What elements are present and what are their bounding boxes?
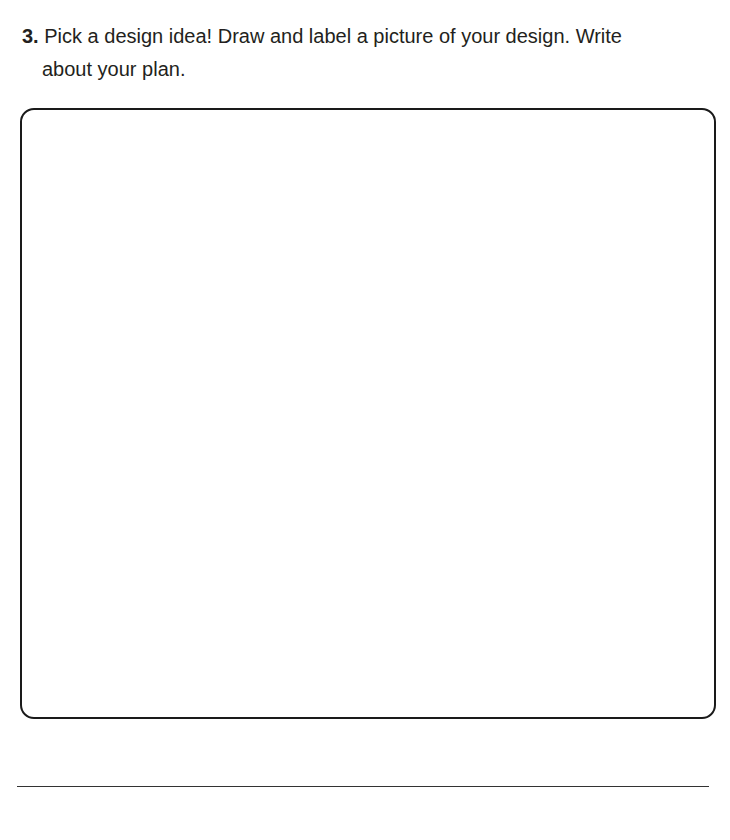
- writing-line[interactable]: [17, 786, 709, 787]
- question-text-line1: Pick a design idea! Draw and label a pic…: [44, 25, 622, 47]
- question-number: 3.: [22, 25, 39, 47]
- question-prompt: 3. Pick a design idea! Draw and label a …: [22, 20, 712, 86]
- question-text-line2: about your plan.: [22, 53, 712, 86]
- drawing-area[interactable]: [20, 108, 716, 719]
